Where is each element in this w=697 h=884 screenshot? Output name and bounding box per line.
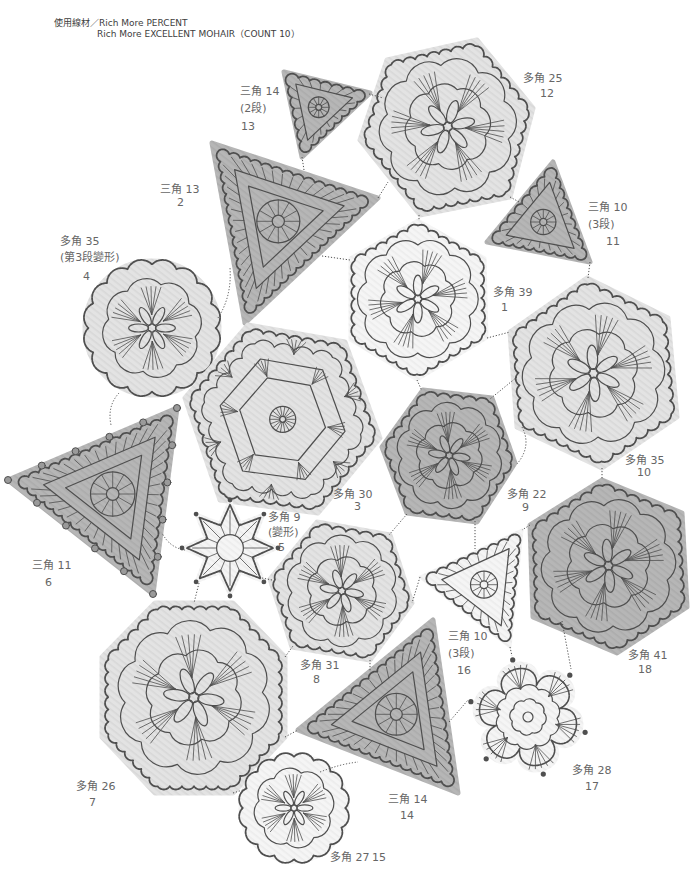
motif-no14-number: 14 xyxy=(400,809,414,823)
connector xyxy=(378,182,388,198)
connector xyxy=(487,332,510,338)
motif-no1-name: 多角 39 xyxy=(493,286,533,300)
motif-no8-name: 多角 31 xyxy=(300,659,340,673)
motif-no15-polygon-27 xyxy=(239,753,349,863)
motif-no17-polygon-28 xyxy=(468,657,587,776)
motif-no3-number: 3 xyxy=(354,500,361,514)
motif-no4-note: (第3段變形) xyxy=(60,251,120,265)
connector xyxy=(322,256,350,260)
motif-no12-name: 多角 25 xyxy=(523,72,563,86)
connector xyxy=(449,700,468,722)
motif-no4-shape xyxy=(85,261,219,395)
motif-no16-name: 三角 10 xyxy=(448,630,488,644)
motif-no2-name: 三角 13 xyxy=(160,183,200,197)
motif-no12-polygon-25 xyxy=(360,40,533,215)
motif-no18-number: 18 xyxy=(638,663,652,677)
motif-no8-number: 8 xyxy=(313,673,320,687)
motif-no13-note: (2段) xyxy=(240,102,267,116)
motif-no15-name: 多角 27 xyxy=(330,851,370,865)
motif-layout-diagram xyxy=(0,0,697,884)
motif-no18-name: 多角 41 xyxy=(628,649,668,663)
motif-no5-number: 5 xyxy=(278,541,285,555)
motif-no6-number: 6 xyxy=(45,576,52,590)
motif-no6-name: 三角 11 xyxy=(32,559,72,573)
motif-no16-note: (3段) xyxy=(448,647,475,661)
motif-no15-shape xyxy=(240,754,348,862)
motif-no8-polygon-31 xyxy=(270,522,412,660)
motif-no11-name: 三角 10 xyxy=(588,201,628,215)
connector xyxy=(110,393,119,425)
motif-no4-polygon-35-variant xyxy=(84,260,220,396)
motif-no4-name: 多角 35 xyxy=(60,235,100,249)
motif-no17-number: 17 xyxy=(585,780,599,794)
motif-no14-name: 三角 14 xyxy=(388,793,428,807)
motif-no12-shape xyxy=(360,40,533,215)
motif-no17-shape xyxy=(474,663,582,771)
motif-no11-number: 11 xyxy=(606,235,620,249)
motif-no10-number: 10 xyxy=(637,466,651,480)
motif-no5-polygon-9-variant xyxy=(180,498,281,599)
motif-no1-polygon-39 xyxy=(350,220,487,380)
motif-no5-name: 多角 9 xyxy=(268,511,301,525)
motif-no1-number: 1 xyxy=(501,301,508,315)
motif-no9-name: 多角 22 xyxy=(507,488,547,502)
motif-no13-triangle-14 xyxy=(284,72,370,157)
connector xyxy=(389,514,407,535)
motif-no5-note: (變形) xyxy=(268,526,299,540)
motif-no2-number: 2 xyxy=(177,196,184,210)
motif-no18-shape xyxy=(530,480,687,653)
motif-no13-name: 三角 14 xyxy=(240,85,280,99)
motif-no4-number: 4 xyxy=(83,270,90,284)
motif-no11-note: (3段) xyxy=(588,218,615,232)
motif-no6-triangle-11 xyxy=(5,405,181,598)
motif-no17-name: 多角 28 xyxy=(572,764,612,778)
motif-no3-name: 多角 30 xyxy=(333,488,373,502)
connector xyxy=(194,583,199,603)
motif-no9-polygon-22 xyxy=(382,390,515,522)
motif-no13-number: 13 xyxy=(241,120,255,134)
motif-no7-name: 多角 26 xyxy=(76,780,116,794)
motif-no10-polygon-35 xyxy=(510,278,677,468)
motif-no18-polygon-41 xyxy=(530,480,687,653)
motif-no7-number: 7 xyxy=(89,796,96,810)
motif-no16-number: 16 xyxy=(457,664,471,678)
connector xyxy=(218,268,230,318)
motif-no12-number: 12 xyxy=(540,87,554,101)
motif-no9-number: 9 xyxy=(522,501,529,515)
motif-no15-number: 15 xyxy=(372,851,386,865)
motif-no7-polygon-26 xyxy=(102,603,285,793)
